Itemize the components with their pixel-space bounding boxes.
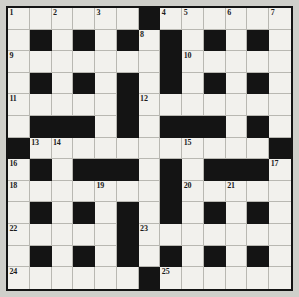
open-cell[interactable] bbox=[30, 224, 52, 246]
open-cell[interactable] bbox=[182, 94, 204, 116]
open-cell[interactable] bbox=[226, 202, 248, 224]
open-cell[interactable]: 3 bbox=[95, 8, 117, 30]
open-cell[interactable] bbox=[95, 224, 117, 246]
open-cell[interactable] bbox=[160, 94, 182, 116]
open-cell[interactable] bbox=[269, 116, 291, 138]
open-cell[interactable] bbox=[247, 8, 269, 30]
open-cell[interactable]: 12 bbox=[139, 94, 161, 116]
open-cell[interactable]: 10 bbox=[182, 51, 204, 73]
open-cell[interactable] bbox=[95, 138, 117, 160]
open-cell[interactable] bbox=[30, 181, 52, 203]
open-cell[interactable]: 17 bbox=[269, 159, 291, 181]
open-cell[interactable] bbox=[247, 138, 269, 160]
open-cell[interactable]: 25 bbox=[160, 267, 182, 289]
open-cell[interactable] bbox=[269, 94, 291, 116]
open-cell[interactable] bbox=[269, 202, 291, 224]
open-cell[interactable] bbox=[139, 181, 161, 203]
open-cell[interactable] bbox=[269, 246, 291, 268]
open-cell[interactable] bbox=[139, 73, 161, 95]
open-cell[interactable]: 6 bbox=[226, 8, 248, 30]
open-cell[interactable] bbox=[8, 116, 30, 138]
open-cell[interactable]: 7 bbox=[269, 8, 291, 30]
open-cell[interactable] bbox=[269, 51, 291, 73]
open-cell[interactable] bbox=[226, 30, 248, 52]
open-cell[interactable] bbox=[73, 267, 95, 289]
open-cell[interactable] bbox=[8, 73, 30, 95]
open-cell[interactable]: 9 bbox=[8, 51, 30, 73]
open-cell[interactable] bbox=[269, 224, 291, 246]
open-cell[interactable]: 4 bbox=[160, 8, 182, 30]
open-cell[interactable] bbox=[95, 30, 117, 52]
open-cell[interactable] bbox=[226, 267, 248, 289]
open-cell[interactable] bbox=[226, 73, 248, 95]
open-cell[interactable] bbox=[247, 51, 269, 73]
open-cell[interactable] bbox=[73, 224, 95, 246]
open-cell[interactable] bbox=[269, 181, 291, 203]
open-cell[interactable] bbox=[117, 8, 139, 30]
open-cell[interactable] bbox=[30, 51, 52, 73]
open-cell[interactable]: 15 bbox=[182, 138, 204, 160]
open-cell[interactable] bbox=[182, 224, 204, 246]
open-cell[interactable] bbox=[139, 202, 161, 224]
open-cell[interactable] bbox=[52, 51, 74, 73]
open-cell[interactable] bbox=[30, 267, 52, 289]
open-cell[interactable] bbox=[182, 73, 204, 95]
open-cell[interactable] bbox=[8, 202, 30, 224]
open-cell[interactable] bbox=[73, 94, 95, 116]
open-cell[interactable] bbox=[139, 116, 161, 138]
open-cell[interactable] bbox=[226, 138, 248, 160]
open-cell[interactable] bbox=[204, 138, 226, 160]
open-cell[interactable] bbox=[182, 267, 204, 289]
open-cell[interactable]: 5 bbox=[182, 8, 204, 30]
open-cell[interactable] bbox=[204, 224, 226, 246]
open-cell[interactable] bbox=[247, 94, 269, 116]
open-cell[interactable]: 14 bbox=[52, 138, 74, 160]
open-cell[interactable] bbox=[52, 246, 74, 268]
open-cell[interactable] bbox=[52, 73, 74, 95]
open-cell[interactable] bbox=[30, 94, 52, 116]
open-cell[interactable] bbox=[160, 224, 182, 246]
open-cell[interactable]: 20 bbox=[182, 181, 204, 203]
open-cell[interactable] bbox=[204, 8, 226, 30]
open-cell[interactable]: 8 bbox=[139, 30, 161, 52]
open-cell[interactable]: 2 bbox=[52, 8, 74, 30]
open-cell[interactable] bbox=[73, 181, 95, 203]
open-cell[interactable] bbox=[8, 30, 30, 52]
open-cell[interactable] bbox=[52, 159, 74, 181]
open-cell[interactable] bbox=[226, 224, 248, 246]
open-cell[interactable] bbox=[247, 224, 269, 246]
open-cell[interactable]: 23 bbox=[139, 224, 161, 246]
open-cell[interactable] bbox=[247, 267, 269, 289]
open-cell[interactable] bbox=[204, 181, 226, 203]
open-cell[interactable] bbox=[269, 267, 291, 289]
open-cell[interactable] bbox=[226, 116, 248, 138]
open-cell[interactable] bbox=[95, 94, 117, 116]
open-cell[interactable] bbox=[269, 30, 291, 52]
open-cell[interactable]: 19 bbox=[95, 181, 117, 203]
open-cell[interactable]: 16 bbox=[8, 159, 30, 181]
open-cell[interactable]: 22 bbox=[8, 224, 30, 246]
open-cell[interactable] bbox=[204, 267, 226, 289]
open-cell[interactable]: 18 bbox=[8, 181, 30, 203]
open-cell[interactable] bbox=[139, 51, 161, 73]
open-cell[interactable] bbox=[226, 94, 248, 116]
open-cell[interactable] bbox=[95, 246, 117, 268]
open-cell[interactable] bbox=[73, 8, 95, 30]
open-cell[interactable] bbox=[247, 181, 269, 203]
open-cell[interactable] bbox=[52, 267, 74, 289]
open-cell[interactable] bbox=[52, 94, 74, 116]
crossword-grid[interactable]: 1234567891011121314151617181920212223242… bbox=[8, 8, 291, 289]
open-cell[interactable] bbox=[182, 30, 204, 52]
open-cell[interactable] bbox=[182, 202, 204, 224]
open-cell[interactable] bbox=[117, 267, 139, 289]
open-cell[interactable] bbox=[204, 51, 226, 73]
open-cell[interactable] bbox=[95, 202, 117, 224]
open-cell[interactable] bbox=[73, 51, 95, 73]
open-cell[interactable] bbox=[160, 138, 182, 160]
open-cell[interactable]: 24 bbox=[8, 267, 30, 289]
open-cell[interactable] bbox=[182, 246, 204, 268]
open-cell[interactable] bbox=[52, 30, 74, 52]
open-cell[interactable] bbox=[95, 51, 117, 73]
open-cell[interactable] bbox=[139, 246, 161, 268]
open-cell[interactable]: 11 bbox=[8, 94, 30, 116]
